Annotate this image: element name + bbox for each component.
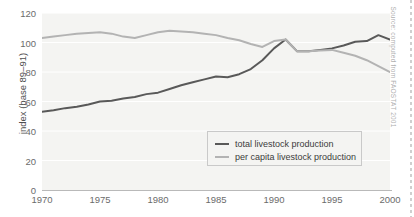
series-line	[42, 35, 390, 112]
livestock-production-chart: index (base 89–91) 020406080100120 19701…	[0, 0, 414, 217]
y-axis-tick-label: 120	[6, 8, 36, 19]
legend-swatch-icon	[215, 143, 229, 145]
legend-item-label: total livestock production	[235, 139, 334, 149]
x-axis-tick-label: 1975	[89, 194, 110, 205]
x-axis-tick-label: 1990	[263, 194, 284, 205]
legend-item-total: total livestock production	[215, 137, 361, 150]
legend-item-per-capita: per capita livestock production	[215, 150, 361, 163]
y-axis-tick-label: 60	[6, 96, 36, 107]
x-axis-line	[42, 190, 392, 191]
y-axis-tick-label: 20	[6, 155, 36, 166]
y-axis-tick-label: 100	[6, 37, 36, 48]
y-axis-tick-label: 80	[6, 67, 36, 78]
source-note: Source: computed from FAOSTAT 2001	[390, 7, 397, 157]
y-axis-tick-label: 40	[6, 126, 36, 137]
x-axis-tick-label: 1995	[321, 194, 342, 205]
series-line	[42, 31, 390, 72]
x-axis-tick-label: 2000	[379, 194, 400, 205]
chart-legend: total livestock production per capita li…	[207, 131, 362, 166]
page-edge-decoration	[410, 0, 412, 217]
legend-item-label: per capita livestock production	[235, 152, 356, 162]
y-axis-title: index (base 89–91)	[17, 29, 28, 159]
legend-swatch-icon	[215, 156, 229, 158]
x-axis-tick-label: 1980	[147, 194, 168, 205]
x-axis-tick-label: 1970	[31, 194, 52, 205]
x-axis-tick-label: 1985	[205, 194, 226, 205]
